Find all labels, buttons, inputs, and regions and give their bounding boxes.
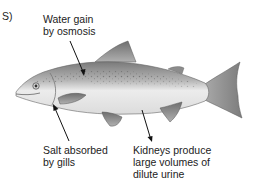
- fish-osmoregulation-diagram: S) Water gain by osmosis Salt absorbed b…: [0, 0, 258, 181]
- label-water-gain: Water gain by osmosis: [43, 13, 96, 37]
- caudal-fin: [205, 62, 242, 118]
- dorsal-fin: [95, 41, 136, 62]
- fish-illustration: [0, 0, 258, 181]
- arrow-kidneys: [142, 110, 153, 142]
- label-line: large volumes of: [133, 156, 211, 168]
- panel-label: S): [2, 10, 13, 22]
- label-line: Kidneys produce: [133, 144, 211, 156]
- label-kidneys: Kidneys produce large volumes of dilute …: [133, 144, 211, 180]
- label-line: Water gain: [43, 13, 96, 25]
- label-salt-absorbed: Salt absorbed by gills: [43, 144, 108, 168]
- label-line: dilute urine: [133, 168, 211, 180]
- label-line: by osmosis: [43, 25, 96, 37]
- label-line: by gills: [43, 156, 108, 168]
- label-line: Salt absorbed: [43, 144, 108, 156]
